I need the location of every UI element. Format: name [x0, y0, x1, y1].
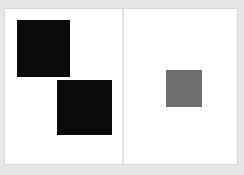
black-square-upper-left — [17, 20, 70, 77]
two-page-spread — [5, 9, 237, 164]
black-square-lower-center — [57, 80, 112, 135]
page-right — [124, 9, 237, 164]
page-left — [5, 9, 122, 164]
gray-square-center — [166, 70, 202, 107]
canvas-backdrop — [0, 0, 244, 175]
